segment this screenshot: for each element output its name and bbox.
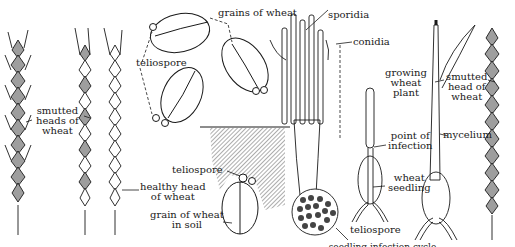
healthy-wheat-head	[104, 28, 122, 235]
smutted-wheat-head-left	[5, 30, 31, 235]
label-teliospore-soil: teliospore	[172, 165, 223, 175]
wheat-seedling	[352, 88, 388, 222]
label-sporidia: sporidia	[328, 10, 369, 20]
label-conidia: conidia	[353, 37, 390, 47]
label-smutted-heads: smuttedheads ofwheat	[36, 106, 79, 136]
leader-lines	[26, 10, 495, 240]
label-grains-of-wheat: grains of wheat	[218, 8, 297, 18]
label-wheat-seedling: wheatseedling	[388, 173, 431, 193]
label-smutted-head-right: smuttedhead ofwheat	[446, 72, 487, 102]
grains-of-wheat	[147, 8, 278, 129]
label-healthy-head: healthy headof wheat	[140, 182, 206, 202]
label-point-of-infection: point ofinfection	[388, 131, 433, 151]
label-teliospore-germinating: teliospore	[350, 225, 401, 235]
figure-caption-cropped: seedling infection cycle	[250, 240, 515, 247]
label-grain-in-soil: grain of wheatin soil	[150, 210, 224, 230]
label-growing-wheat-plant: growingwheatplant	[385, 68, 427, 98]
label-mycelium: mycelium	[443, 130, 492, 140]
label-teliospore-top: teliospore	[136, 58, 187, 68]
